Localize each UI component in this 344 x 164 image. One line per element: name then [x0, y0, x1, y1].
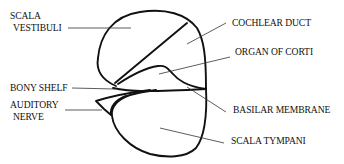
vestibular-membrane: [115, 23, 187, 83]
label-auditory-nerve-line2: NERVE: [13, 111, 44, 122]
leader-organ-of-corti: [159, 57, 230, 74]
scala-vestibuli-outline: [98, 11, 206, 88]
label-bony-shelf: BONY SHELF: [10, 82, 68, 93]
label-scala-vestibuli-line2: VESTIBULI: [13, 22, 62, 33]
label-scala-tympani: SCALA TYMPANI: [231, 135, 306, 146]
label-scala-vestibuli-line1: SCALA: [10, 10, 41, 21]
leader-cochlear-duct: [187, 23, 226, 44]
leader-bony-shelf: [72, 88, 115, 89]
scala-tympani-outline: [112, 88, 206, 156]
label-organ-of-corti: ORGAN OF CORTI: [235, 46, 313, 57]
auditory-nerve-shape: [96, 90, 150, 115]
label-auditory-nerve-line1: AUDITORY: [10, 99, 59, 110]
cochlea-diagram: SCALA VESTIBULI COCHLEAR DUCT ORGAN OF C…: [0, 0, 344, 164]
label-basilar-membrane: BASILAR MEMBRANE: [233, 104, 331, 115]
leader-scala-tympani: [160, 128, 224, 143]
label-cochlear-duct: COCHLEAR DUCT: [232, 17, 311, 28]
